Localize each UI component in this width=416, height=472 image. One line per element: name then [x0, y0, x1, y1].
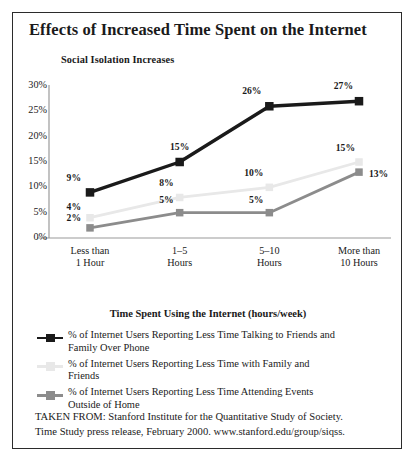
x-axis-category: More than10 Hours — [338, 245, 380, 270]
data-point-label: 5% — [249, 194, 263, 205]
y-axis-tick: 0% — [13, 231, 47, 242]
data-point-label: 2% — [67, 212, 81, 223]
y-axis-tick: 20% — [13, 130, 47, 141]
y-axis-tick: 25% — [13, 104, 47, 115]
legend-square-swatch — [46, 391, 55, 400]
y-axis-tick: 5% — [13, 206, 47, 217]
legend-item[interactable]: % of Internet Users Reporting Less Time … — [37, 358, 387, 383]
chart-page: Effects of Increased Time Spent on the I… — [0, 0, 416, 472]
data-point-label: 15% — [336, 142, 355, 153]
data-point-label: 8% — [159, 177, 173, 188]
x-axis-category: 5–10Hours — [257, 245, 282, 270]
legend-item-label: % of Internet Users Reporting Less Time … — [68, 358, 310, 383]
data-point-label: 10% — [244, 167, 263, 178]
data-point-label: 5% — [159, 194, 173, 205]
x-axis-category-line: Hours — [167, 257, 192, 269]
legend-item[interactable]: % of Internet Users Reporting Less Time … — [37, 386, 387, 411]
data-point-label: 27% — [334, 80, 353, 91]
y-axis-tick: 30% — [13, 79, 47, 90]
source-note: TAKEN FROM: Stanford Institute for the Q… — [35, 409, 391, 439]
legend-label-line: Friends — [68, 370, 310, 383]
x-axis-category-line: 10 Hours — [338, 257, 380, 269]
legend-label-line: Family Over Phone — [68, 342, 335, 355]
legend-marker-icon — [37, 360, 63, 373]
chart-frame: Effects of Increased Time Spent on the I… — [12, 12, 402, 449]
x-axis-category-line: 1 Hour — [71, 257, 110, 269]
source-line-1: TAKEN FROM: Stanford Institute for the Q… — [35, 409, 391, 424]
x-axis-category-line: More than — [338, 245, 380, 257]
x-axis-category-line: Less than — [71, 245, 110, 257]
legend-title: Time Spent Using the Internet (hours/wee… — [110, 308, 307, 319]
data-point-label: 13% — [369, 168, 388, 179]
chart-legend: % of Internet Users Reporting Less Time … — [37, 329, 387, 415]
source-line-2: Time Study press release, February 2000.… — [35, 424, 391, 439]
legend-item-label: % of Internet Users Reporting Less Time … — [68, 386, 313, 411]
x-axis-category: 1–5Hours — [167, 245, 192, 270]
x-axis-category-line: 5–10 — [257, 245, 282, 257]
data-point-label: 26% — [242, 85, 261, 96]
legend-item-label: % of Internet Users Reporting Less Time … — [68, 329, 335, 354]
data-point-label: 4% — [67, 201, 81, 212]
legend-label-line: % of Internet Users Reporting Less Time … — [68, 386, 313, 399]
data-point-label: 9% — [67, 172, 81, 183]
x-axis-category-line: 1–5 — [167, 245, 192, 257]
y-axis-tick: 10% — [13, 180, 47, 191]
x-axis-category-line: Hours — [257, 257, 282, 269]
legend-square-swatch — [46, 334, 55, 343]
data-point-label: 15% — [170, 141, 189, 152]
legend-marker-icon — [37, 332, 63, 345]
legend-item[interactable]: % of Internet Users Reporting Less Time … — [37, 329, 387, 354]
x-axis-category: Less than1 Hour — [71, 245, 110, 270]
y-axis-tick: 15% — [13, 155, 47, 166]
legend-square-swatch — [46, 362, 55, 371]
legend-label-line: % of Internet Users Reporting Less Time … — [68, 358, 310, 371]
legend-label-line: % of Internet Users Reporting Less Time … — [68, 329, 335, 342]
legend-marker-icon — [37, 389, 63, 402]
